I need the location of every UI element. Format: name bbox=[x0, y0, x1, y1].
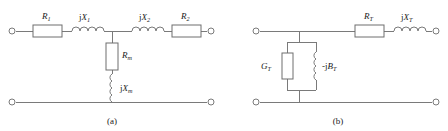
label-jxt: jXT bbox=[400, 12, 413, 23]
terminal-a-top-right[interactable] bbox=[208, 28, 214, 34]
label-rt: RT bbox=[363, 11, 374, 22]
resistor-rt[interactable] bbox=[355, 25, 384, 37]
terminal-a-top-left[interactable] bbox=[9, 28, 15, 34]
label-r2: R2 bbox=[180, 11, 190, 22]
resistor-r1[interactable] bbox=[33, 25, 62, 37]
susceptance-jbt[interactable] bbox=[314, 52, 316, 80]
terminal-b-bottom-left[interactable] bbox=[253, 99, 259, 105]
label-gt: GT bbox=[261, 61, 272, 72]
resistor-rm[interactable] bbox=[106, 43, 118, 70]
label-r1: R1 bbox=[41, 11, 51, 22]
circuit-diagram-canvas: R1 jX1 jX2 R2 Rm jXm (a) bbox=[0, 0, 448, 131]
label-jbt: -jBT bbox=[322, 61, 337, 72]
inductor-jxm[interactable] bbox=[110, 74, 112, 102]
subfigure-a: R1 jX1 jX2 R2 Rm jXm (a) bbox=[9, 11, 214, 126]
conductance-gt[interactable] bbox=[282, 53, 293, 79]
label-jx2: jX2 bbox=[138, 12, 150, 23]
inductor-jx2[interactable] bbox=[132, 27, 164, 31]
label-jxm: jXm bbox=[119, 83, 133, 94]
subfigure-b: RT jXT GT -jBT (b) bbox=[253, 11, 439, 126]
circuit-figure: R1 jX1 jX2 R2 Rm jXm (a) bbox=[0, 0, 448, 131]
terminal-b-top-left[interactable] bbox=[253, 28, 259, 34]
label-rm: Rm bbox=[121, 50, 133, 61]
terminal-b-bottom-right[interactable] bbox=[433, 99, 439, 105]
terminal-a-bottom-right[interactable] bbox=[208, 99, 214, 105]
resistor-r2[interactable] bbox=[172, 25, 201, 37]
inductor-jx1[interactable] bbox=[72, 27, 104, 31]
caption-subfigure-b: (b) bbox=[333, 116, 344, 126]
terminal-b-top-right[interactable] bbox=[433, 28, 439, 34]
caption-subfigure-a: (a) bbox=[107, 116, 117, 126]
terminal-a-bottom-left[interactable] bbox=[9, 99, 15, 105]
inductor-jxt[interactable] bbox=[394, 27, 426, 31]
label-jx1: jX1 bbox=[78, 12, 90, 23]
